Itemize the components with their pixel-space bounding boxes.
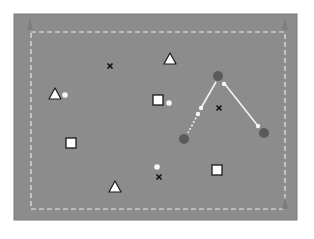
ball-icon	[62, 92, 68, 98]
dark-player-icon	[259, 128, 269, 138]
dark-player-icon	[179, 134, 189, 144]
pitch-area	[14, 14, 297, 220]
square-player-icon	[212, 165, 222, 175]
square-player-icon	[66, 138, 76, 148]
dark-player-icon	[213, 71, 223, 81]
square-player-icon	[153, 95, 163, 105]
drill-diagram	[0, 0, 314, 239]
pass-point	[256, 124, 260, 128]
pass-point	[199, 106, 203, 110]
pass-point	[222, 82, 226, 86]
pass-point	[196, 112, 200, 116]
ball-icon	[166, 100, 172, 106]
ball-icon	[154, 164, 160, 170]
